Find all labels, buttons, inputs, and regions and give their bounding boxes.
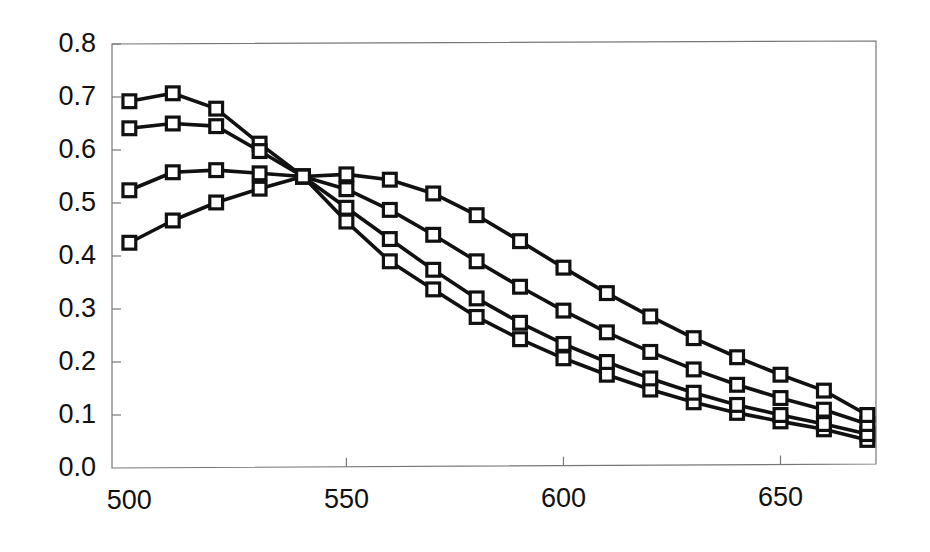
data-point-marker	[383, 173, 396, 186]
data-point-marker	[210, 196, 223, 209]
data-point-marker	[166, 214, 179, 227]
data-point-marker	[383, 203, 396, 216]
data-point-marker	[427, 187, 440, 200]
data-point-marker	[644, 346, 657, 359]
data-point-marker	[818, 384, 831, 397]
data-point-marker	[427, 228, 440, 241]
data-point-marker	[731, 351, 744, 364]
data-point-marker	[557, 338, 570, 351]
data-point-marker	[557, 304, 570, 317]
y-tick-label: 0.3	[58, 293, 96, 323]
data-point-marker	[644, 372, 657, 385]
data-point-marker	[383, 233, 396, 246]
data-point-marker	[210, 164, 223, 177]
y-tick-label: 0.4	[58, 240, 96, 270]
data-point-marker	[644, 310, 657, 323]
data-series	[123, 168, 874, 421]
axes	[112, 41, 876, 468]
data-point-marker	[340, 215, 353, 228]
data-point-marker	[253, 167, 266, 180]
data-point-marker	[253, 145, 266, 158]
data-point-marker	[687, 363, 700, 376]
data-point-marker	[731, 399, 744, 412]
data-point-marker	[210, 102, 223, 115]
x-tick-label: 600	[541, 483, 586, 513]
data-point-marker	[297, 170, 310, 183]
data-point-marker	[514, 235, 527, 248]
data-point-marker	[123, 95, 136, 108]
data-series	[123, 164, 874, 431]
data-point-marker	[557, 261, 570, 274]
y-tick-label: 0.6	[58, 134, 96, 164]
data-point-marker	[514, 280, 527, 293]
y-tick-label: 0.1	[58, 399, 96, 429]
data-point-marker	[470, 255, 483, 268]
data-point-marker	[123, 236, 136, 249]
data-point-marker	[774, 368, 787, 381]
data-point-marker	[774, 392, 787, 405]
data-point-marker	[123, 184, 136, 197]
data-series-group	[123, 87, 874, 446]
y-tick-label: 0.5	[58, 187, 96, 217]
data-point-marker	[340, 183, 353, 196]
x-tick-label: 500	[107, 485, 152, 515]
y-tick-label: 0.2	[58, 346, 96, 376]
data-point-marker	[774, 409, 787, 422]
x-tick-label: 550	[324, 484, 369, 514]
data-point-marker	[861, 409, 874, 422]
data-point-marker	[600, 356, 613, 369]
data-point-marker	[818, 403, 831, 416]
data-point-marker	[687, 332, 700, 345]
plot-area: 0.00.10.20.30.40.50.60.70.8 500550600650	[0, 0, 930, 552]
data-point-marker	[340, 201, 353, 214]
data-point-marker	[427, 283, 440, 296]
data-point-marker	[340, 168, 353, 181]
axis-frame	[112, 41, 876, 468]
data-point-marker	[470, 209, 483, 222]
data-point-marker	[731, 378, 744, 391]
data-point-marker	[166, 166, 179, 179]
line-chart: 0.00.10.20.30.40.50.60.70.8 500550600650	[0, 0, 930, 552]
series-line	[129, 174, 867, 415]
series-line	[129, 93, 867, 440]
data-point-marker	[600, 326, 613, 339]
data-point-marker	[557, 352, 570, 365]
x-axis-tick-labels: 500550600650	[107, 482, 803, 515]
data-point-marker	[166, 87, 179, 100]
data-point-marker	[123, 122, 136, 135]
data-point-marker	[818, 418, 831, 431]
y-tick-label: 0.7	[58, 81, 96, 111]
series-line	[129, 170, 867, 424]
data-point-marker	[514, 316, 527, 329]
data-point-marker	[687, 386, 700, 399]
data-point-marker	[166, 117, 179, 130]
data-point-marker	[600, 287, 613, 300]
data-point-marker	[470, 292, 483, 305]
data-point-marker	[470, 311, 483, 324]
data-point-marker	[383, 255, 396, 268]
x-tick-label: 650	[758, 482, 803, 512]
y-axis-tick-labels: 0.00.10.20.30.40.50.60.70.8	[58, 28, 96, 482]
data-point-marker	[253, 182, 266, 195]
y-tick-label: 0.0	[58, 452, 96, 482]
data-point-marker	[210, 120, 223, 133]
data-point-marker	[514, 333, 527, 346]
y-tick-label: 0.8	[58, 28, 96, 58]
data-point-marker	[427, 263, 440, 276]
data-point-marker	[600, 368, 613, 381]
